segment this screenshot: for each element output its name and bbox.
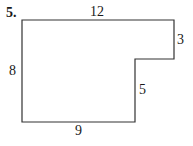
polygon-figure (0, 0, 193, 146)
label-inner-right-side: 5 (139, 83, 146, 97)
label-bottom-side: 9 (75, 124, 82, 138)
label-left-side: 8 (9, 64, 16, 78)
label-right-upper-side: 3 (177, 33, 184, 47)
problem-number: 5. (6, 6, 17, 20)
l-shaped-polygon (22, 20, 174, 122)
label-top-side: 12 (90, 5, 104, 19)
